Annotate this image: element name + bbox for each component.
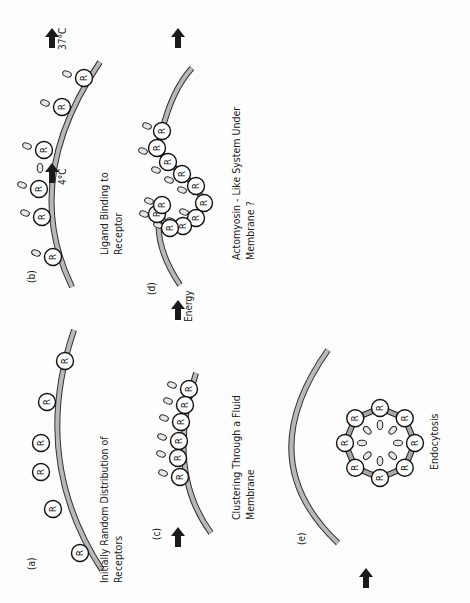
receptor-letter: R [375,405,385,411]
arrows [45,28,373,588]
caption-a-1: Receptors [112,536,124,583]
ligand-ring-6 [377,421,383,430]
receptor-b-4: R [54,99,71,116]
ligand-b-0 [31,249,41,257]
receptor-a-5: R [72,545,89,562]
ligand-c-3 [157,433,167,441]
ligand-d-10 [144,197,154,205]
receptor-letter: R [410,440,420,446]
ligand-b-4 [40,99,50,107]
panel-label-c: (c) [151,528,162,540]
receptor-letter: R [165,225,175,231]
receptor-a-3: R [33,464,50,481]
ligand-ring-2 [377,457,383,466]
up-arrow-icon-top-right [171,28,185,48]
caption-a-0: Initially Random Distribution of [98,436,110,583]
ligand-ring-1 [388,451,398,461]
ligand-d-4 [177,186,187,194]
receptor-letter: R [178,223,188,229]
receptor-letter: R [157,128,167,134]
receptor-c-0: R [181,381,198,398]
receptor-letter: R [180,402,190,408]
panel-label-b: (b) [26,270,37,283]
receptor-letter: R [177,171,187,177]
receptor-letter: R [157,202,167,208]
receptor-d-1: R [149,140,166,157]
caption-c-0: Clustering Through a Fluid [230,395,242,520]
receptor-letter: R [350,415,360,421]
caption-b-1: Receptor [112,213,124,255]
caption-e-0: Endocytosis [428,413,440,470]
receptor-letter: R [36,469,46,475]
panel-label-e: (e) [296,532,307,545]
figure-canvas: RRRRRRRRRRRRRRRRRRRRRRRRRRRRRRRRRRRRR (a… [0,0,470,603]
ligand-d-0 [142,122,152,130]
ligand-ring-0 [394,440,403,446]
receptor-ring-5: R [347,410,364,427]
caption-d-1: Membrane ? [244,201,256,260]
ligand-ring-7 [388,425,398,435]
receptor-letter: R [191,183,201,189]
caption-b-0: Ligand Binding to [98,172,110,255]
ligand-b-3 [22,142,32,150]
receptor-clustering-figure: RRRRRRRRRRRRRRRRRRRRRRRRRRRRRRRRRRRRR (a… [0,0,470,603]
receptor-d-4: R [188,178,205,195]
receptor-letter: R [375,475,385,481]
receptor-letter: R [48,506,58,512]
receptor-ring-1: R [396,459,413,476]
receptor-d-2: R [160,154,177,171]
receptor-letter: R [400,465,410,471]
receptor-d-10: R [154,197,171,214]
membrane-e [291,350,338,543]
ligand-b-2 [17,181,27,189]
receptor-ring-6: R [372,400,389,417]
receptor-ring-7: R [396,410,413,427]
receptors: RRRRRRRRRRRRRRRRRRRRRRRRRRRRRRRRRRRRR [31,70,424,562]
receptor-b-3: R [36,142,53,159]
ligand-d-3 [164,176,174,184]
receptor-letter: R [400,415,410,421]
receptor-c-1: R [177,397,194,414]
ligand-d-9 [139,210,149,218]
caption-d-0: Actomyosin - Like System Under [230,107,242,260]
receptor-d-3: R [174,166,191,183]
ligand-c-1 [163,397,173,405]
ligand-c-0 [167,381,177,389]
ligand-ring-3 [362,451,372,461]
receptor-letter: R [34,186,44,192]
receptor-b-5: R [76,70,93,87]
receptor-b-2: R [31,181,48,198]
receptor-letter: R [57,104,67,110]
up-arrow-icon-e [359,568,373,588]
receptor-c-4: R [170,450,187,467]
ligand-ring-5 [362,425,372,435]
arrow-label-37c: 37°C [57,28,68,50]
ligand-d-2 [151,166,161,174]
receptor-letter: R [42,399,52,405]
receptor-letter: R [48,254,58,260]
receptor-b-0: R [45,249,62,266]
labels: (a)Initially Random Distribution ofRecep… [26,28,440,583]
arrow-label-b: 4°C [57,168,68,185]
ligand-c-4 [156,450,166,458]
receptor-letter: R [350,465,360,471]
receptor-letter: R [36,440,46,446]
receptor-letter: R [39,147,49,153]
receptor-letter: R [174,438,184,444]
caption-c-1: Membrane [244,469,256,520]
panel-label-d: (d) [146,282,157,295]
receptor-b-1: R [34,209,51,226]
arrow-label-d: Energy [183,290,194,322]
up-arrow-icon-c [171,527,185,547]
receptor-a-2: R [33,435,50,452]
receptor-c-2: R [173,414,190,431]
ligand-ring-4 [358,440,367,446]
receptor-letter: R [176,419,186,425]
receptor-letter: R [75,550,85,556]
receptor-letter: R [184,386,194,392]
receptor-ring-4: R [337,435,354,452]
receptor-c-3: R [171,433,188,450]
receptor-ring-2: R [372,470,389,487]
receptor-a-0: R [57,353,74,370]
receptor-letter: R [37,214,47,220]
